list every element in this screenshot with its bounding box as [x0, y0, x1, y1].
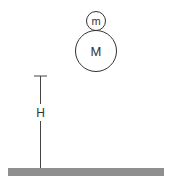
large-ball: M [76, 31, 117, 72]
physics-diagram: m M H [0, 0, 170, 185]
height-label: H [36, 106, 45, 120]
small-ball-label: m [91, 15, 100, 27]
small-ball: m [87, 12, 106, 31]
large-ball-label: M [91, 44, 102, 59]
height-marker: H [34, 76, 47, 168]
ground [8, 168, 164, 176]
